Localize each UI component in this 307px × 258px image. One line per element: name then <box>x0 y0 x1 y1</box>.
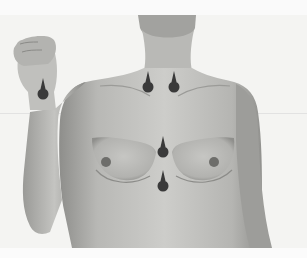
fist <box>13 36 56 66</box>
bottom-margin <box>0 248 307 258</box>
pin-icon <box>157 170 169 192</box>
pin-icon <box>157 136 169 158</box>
torso-photo <box>0 0 307 258</box>
left-clavicle-marker <box>142 71 154 93</box>
mid-sternum-marker <box>157 136 169 158</box>
pin-icon <box>142 71 154 93</box>
right-nipple <box>209 157 219 167</box>
left-nipple <box>101 157 111 167</box>
lower-sternum-marker <box>157 170 169 192</box>
right-clavicle-marker <box>168 71 180 93</box>
body-silhouette <box>0 0 307 258</box>
wrist-marker <box>37 78 49 100</box>
pin-icon <box>37 78 49 100</box>
pin-icon <box>168 71 180 93</box>
